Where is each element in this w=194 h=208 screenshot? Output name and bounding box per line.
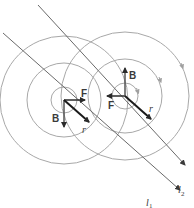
wire-l2 xyxy=(38,5,185,165)
wire-l1 xyxy=(3,33,180,190)
parallel-currents-diagram: F B r F B r l 2 l 1 xyxy=(0,0,194,208)
force-label-right: F xyxy=(108,100,114,111)
wire-subscript-l2: 2 xyxy=(181,190,185,198)
wire-labels: l 2 l 1 xyxy=(146,184,185,208)
field-direction-arrows xyxy=(137,63,183,92)
wire-subscript-l1: 1 xyxy=(149,202,153,208)
vectors-right: F B r xyxy=(107,68,153,119)
force-label-left: F xyxy=(81,88,87,99)
position-label-left: r xyxy=(82,124,86,135)
arrow-icon xyxy=(159,77,161,81)
field-label-right: B xyxy=(129,70,136,81)
position-label-right: r xyxy=(149,103,153,114)
field-label-left: B xyxy=(52,113,59,124)
diagram-canvas: F B r F B r l 2 l 1 xyxy=(0,0,194,208)
